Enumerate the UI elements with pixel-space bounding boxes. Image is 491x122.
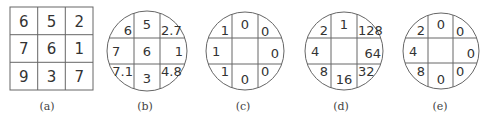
cell-value: 6 <box>19 13 29 31</box>
value-n: 5 <box>143 17 151 32</box>
panel-b-circular-neighborhood: 6 5 2.7 7 6 1 7.1 3 4.8 (b) <box>107 11 187 113</box>
caption-d: (d) <box>333 100 349 113</box>
value-e: 0 <box>271 46 279 61</box>
cell-value: 5 <box>47 13 57 31</box>
value-s: 0 <box>241 72 249 87</box>
value-n: 0 <box>241 17 249 32</box>
value-w: 1 <box>212 44 220 59</box>
panel-e-weighted-product: 2 0 0 4 0 8 0 0 (e) <box>403 13 479 113</box>
value-w: 4 <box>311 44 319 59</box>
value-ne: 0 <box>261 24 269 39</box>
value-n: 1 <box>340 17 348 32</box>
value-s: 0 <box>437 72 445 87</box>
value-sw: 8 <box>417 64 425 79</box>
value-w: 4 <box>409 44 417 59</box>
value-ne: 128 <box>358 23 383 38</box>
value-se: 4.8 <box>161 64 182 79</box>
panel-c-thresholded-bits: 1 0 0 1 0 1 0 0 (c) <box>206 12 284 113</box>
value-e: 1 <box>175 44 183 59</box>
caption-b: (b) <box>137 100 153 113</box>
value-ne: 2.7 <box>161 23 182 38</box>
cell-value: 7 <box>74 68 84 86</box>
value-s: 3 <box>143 71 151 86</box>
value-c: 6 <box>143 44 151 59</box>
value-se: 0 <box>456 64 464 79</box>
value-se: 32 <box>358 64 375 79</box>
cell-value: 7 <box>19 40 29 58</box>
cell-value: 1 <box>74 40 84 58</box>
value-ne: 0 <box>456 24 464 39</box>
cell-value: 2 <box>74 13 84 31</box>
value-nw: 1 <box>221 23 229 38</box>
lbp-figure: 6 5 2 7 6 1 9 3 7 (a) 6 5 2.7 7 6 1 7.1 … <box>0 0 491 122</box>
caption-c: (c) <box>236 100 251 113</box>
caption-e: (e) <box>432 100 447 113</box>
value-nw: 2 <box>320 23 328 38</box>
value-sw: 8 <box>320 64 328 79</box>
panel-a-square-grid: 6 5 2 7 6 1 9 3 7 (a) <box>10 7 93 113</box>
value-n: 0 <box>437 17 445 32</box>
value-s: 16 <box>336 72 353 87</box>
value-nw: 2 <box>417 23 425 38</box>
cell-value: 9 <box>19 68 29 86</box>
panel-d-binary-weights: 2 1 128 4 64 8 16 32 (d) <box>305 12 383 113</box>
value-sw: 1 <box>221 64 229 79</box>
value-nw: 6 <box>124 23 132 38</box>
value-e: 0 <box>467 46 475 61</box>
value-e: 64 <box>364 46 381 61</box>
value-w: 7 <box>112 44 120 59</box>
caption-a: (a) <box>39 100 54 113</box>
value-se: 0 <box>261 64 269 79</box>
cell-value: 3 <box>47 68 57 86</box>
value-sw: 7.1 <box>112 64 133 79</box>
cell-value: 6 <box>47 40 57 58</box>
